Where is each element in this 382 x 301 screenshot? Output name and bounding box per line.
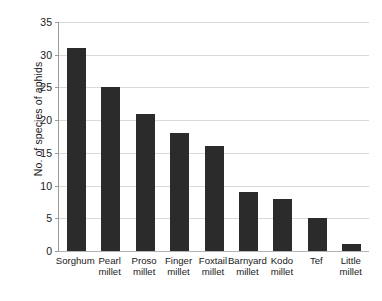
bar [239, 192, 258, 251]
y-axis-tick-mark [55, 251, 59, 252]
bar-chart-figure: No. of species of aphids 05101520253035 … [0, 0, 382, 301]
y-axis-tick-mark [55, 55, 59, 56]
bar [342, 244, 361, 251]
y-axis-tick-label: 30 [40, 49, 52, 61]
y-axis-tick-mark [55, 153, 59, 154]
x-axis-label-line: Little [323, 255, 379, 266]
y-axis-tick-mark [55, 120, 59, 121]
y-axis-tick-mark [55, 87, 59, 88]
y-axis-tick-mark [55, 186, 59, 187]
bar [273, 199, 292, 251]
y-axis-tick-label: 25 [40, 81, 52, 93]
bar [136, 114, 155, 251]
y-axis-tick-label: 20 [40, 114, 52, 126]
y-axis-tick-mark [55, 22, 59, 23]
y-axis-tick-label: 10 [40, 180, 52, 192]
bar [67, 48, 86, 251]
gridline [59, 22, 369, 23]
bar [205, 146, 224, 251]
y-axis-tick-label: 5 [46, 212, 52, 224]
y-axis-tick-mark [55, 218, 59, 219]
x-axis-label: Littlemillet [323, 255, 379, 278]
x-axis-label-line: millet [323, 266, 379, 277]
y-axis-tick-label: 15 [40, 147, 52, 159]
bar [170, 133, 189, 251]
y-axis-tick-label: 35 [40, 16, 52, 28]
gridline [59, 251, 369, 252]
x-axis-label-line: millet [254, 266, 310, 277]
plot-area: 05101520253035 [58, 22, 368, 251]
gridline [59, 55, 369, 56]
bar [308, 218, 327, 251]
bar [101, 87, 120, 251]
